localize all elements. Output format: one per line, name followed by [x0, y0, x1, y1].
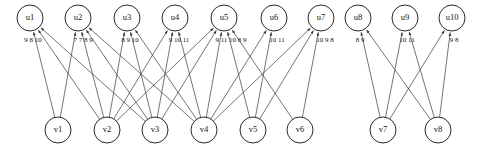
- node-label-v5: v5: [249, 124, 258, 134]
- node-label-u3: u3: [123, 12, 132, 22]
- graph-node-u10[interactable]: u10: [439, 5, 465, 31]
- edge-weight-label-u3-w: 8 9 10: [121, 36, 139, 44]
- graph-node-v3[interactable]: v3: [142, 117, 168, 143]
- graph-node-v8[interactable]: v8: [425, 117, 451, 143]
- node-label-v3: v3: [151, 124, 160, 134]
- weight-label-layer: 9 8 107 7 8 98 9 109 10 119 11 10 8 910 …: [24, 36, 459, 44]
- graph-edge-v8-u9: [409, 32, 434, 118]
- edge-weight-label-u10-w: 9 8: [450, 36, 459, 44]
- node-label-v8: v8: [434, 124, 443, 134]
- graph-node-v2[interactable]: v2: [94, 117, 120, 143]
- node-label-u2: u2: [74, 12, 83, 22]
- node-label-u5: u5: [220, 12, 229, 22]
- node-label-u7: u7: [317, 12, 326, 22]
- graph-node-u9[interactable]: u9: [392, 5, 418, 31]
- edge-weight-label-u7-w: 10 9 8: [316, 36, 334, 44]
- node-label-v1: v1: [54, 124, 63, 134]
- graph-canvas: u1u2u3u4u5u6u7u8u9u10v1v2v3v4v5v6v7v8 9 …: [0, 0, 485, 152]
- graph-node-v5[interactable]: v5: [240, 117, 266, 143]
- graph-edge-v7-u10: [390, 30, 445, 119]
- edge-weight-label-u1-w: 9 8 10: [24, 36, 42, 44]
- edge-weight-label-u5-w: 9 11 10 8 9: [215, 36, 247, 44]
- node-label-u4: u4: [171, 12, 180, 22]
- bipartite-graph-diagram: u1u2u3u4u5u6u7u8u9u10v1v2v3v4v5v6v7v8 9 …: [0, 0, 485, 152]
- graph-node-u2[interactable]: u2: [65, 5, 91, 31]
- graph-node-u3[interactable]: u3: [114, 5, 140, 31]
- node-label-v2: v2: [103, 124, 112, 134]
- edge-weight-label-u4-w: 9 10 11: [169, 36, 190, 44]
- edge-weight-label-u2-w: 7 7 8 9: [73, 36, 93, 44]
- graph-node-v7[interactable]: v7: [370, 117, 396, 143]
- node-label-u8: u8: [354, 12, 363, 22]
- node-label-u6: u6: [270, 12, 279, 22]
- graph-edge-v1-u1: [34, 32, 55, 117]
- graph-node-u4[interactable]: u4: [162, 5, 188, 31]
- graph-edge-v5-u7: [260, 30, 314, 118]
- edge-weight-label-u8-w: 8 9: [356, 36, 365, 44]
- graph-edge-v1-u2: [60, 32, 75, 117]
- edge-weight-label-u6-w: 10 11: [269, 36, 285, 44]
- node-label-u1: u1: [26, 12, 35, 22]
- graph-node-u5[interactable]: u5: [211, 5, 237, 31]
- graph-node-v4[interactable]: v4: [191, 117, 217, 143]
- node-label-u10: u10: [446, 12, 459, 22]
- graph-node-u7[interactable]: u7: [308, 5, 334, 31]
- node-label-v4: v4: [200, 124, 209, 134]
- node-label-v6: v6: [296, 124, 305, 134]
- graph-node-u8[interactable]: u8: [345, 5, 371, 31]
- node-label-u9: u9: [401, 12, 410, 22]
- graph-edge-v8-u10: [440, 32, 451, 117]
- graph-edge-v4-u5: [206, 32, 221, 117]
- graph-node-v6[interactable]: v6: [287, 117, 313, 143]
- graph-edge-v5-u6: [255, 32, 271, 117]
- graph-edge-v7-u9: [386, 32, 403, 117]
- graph-node-v1[interactable]: v1: [45, 117, 71, 143]
- graph-node-u6[interactable]: u6: [261, 5, 287, 31]
- edge-weight-label-u9-w: 10 11: [399, 36, 415, 44]
- graph-edge-v4-u4: [179, 32, 201, 117]
- graph-edge-v2-u2: [82, 32, 104, 117]
- node-label-v7: v7: [379, 124, 388, 134]
- graph-node-u1[interactable]: u1: [17, 5, 43, 31]
